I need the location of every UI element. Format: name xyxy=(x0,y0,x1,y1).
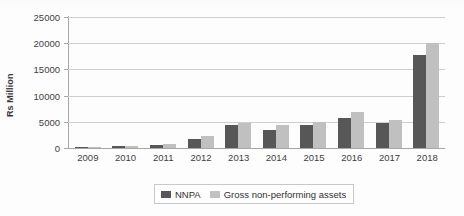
bar-group xyxy=(182,17,220,148)
bar xyxy=(313,122,326,148)
bar-group xyxy=(407,17,445,148)
bar-group xyxy=(370,17,408,148)
bar xyxy=(300,125,313,148)
bar xyxy=(188,139,201,148)
legend-item: NNPA xyxy=(161,189,201,200)
x-axis-tick-label: 2011 xyxy=(144,150,182,166)
bar xyxy=(413,55,426,148)
bar xyxy=(225,125,238,148)
y-axis-tickmark xyxy=(64,69,68,70)
x-axis-tick-label: 2017 xyxy=(371,150,409,166)
x-axis-tick-label: 2013 xyxy=(220,150,258,166)
y-axis-tick-label: 10000 xyxy=(34,90,60,101)
x-axis-tick-label: 2009 xyxy=(69,150,107,166)
bar-group xyxy=(332,17,370,148)
bar-chart: Rs Million 0500010000150002000025000 200… xyxy=(0,0,464,216)
y-axis-tick-label: 25000 xyxy=(34,12,60,23)
bar xyxy=(351,112,364,148)
bar-group xyxy=(257,17,295,148)
x-axis-tick-label: 2018 xyxy=(408,150,446,166)
y-axis-tick-label: 15000 xyxy=(34,64,60,75)
y-axis-tickmark xyxy=(64,96,68,97)
bar xyxy=(163,144,176,148)
plot-area xyxy=(68,17,445,148)
bar-group xyxy=(295,17,333,148)
y-axis-tickmark xyxy=(64,43,68,44)
bar-group xyxy=(107,17,145,148)
bar xyxy=(276,125,289,148)
x-axis-tick-labels: 2009201020112012201320142015201620172018 xyxy=(69,150,446,166)
scan-tint xyxy=(0,0,464,12)
y-axis-tick-labels: 0500010000150002000025000 xyxy=(18,0,64,216)
bar-group xyxy=(69,17,107,148)
legend-label: NNPA xyxy=(175,189,201,200)
legend-item: Gross non-performing assets xyxy=(210,189,347,200)
y-axis-tick-label: 0 xyxy=(55,143,60,154)
bar-group xyxy=(144,17,182,148)
x-axis-tick-label: 2015 xyxy=(295,150,333,166)
legend-label: Gross non-performing assets xyxy=(224,189,347,200)
chart-legend: NNPAGross non-performing assets xyxy=(154,184,354,204)
bar-group xyxy=(219,17,257,148)
bar xyxy=(238,123,251,148)
x-axis-tick-label: 2014 xyxy=(258,150,296,166)
x-axis-tick-label: 2010 xyxy=(107,150,145,166)
x-axis-tick-label: 2012 xyxy=(182,150,220,166)
bar xyxy=(201,136,214,148)
bar xyxy=(75,147,88,148)
x-axis-line xyxy=(68,148,445,149)
bar xyxy=(150,145,163,148)
y-axis-tickmark xyxy=(64,17,68,18)
bar xyxy=(389,120,402,148)
x-axis-tick-label: 2016 xyxy=(333,150,371,166)
y-axis-tickmark xyxy=(64,148,68,149)
bar xyxy=(112,146,125,148)
y-axis-title: Rs Million xyxy=(3,50,17,140)
y-axis-tickmark xyxy=(64,122,68,123)
legend-swatch xyxy=(210,191,220,198)
bar xyxy=(338,118,351,148)
bar xyxy=(263,130,276,148)
bar xyxy=(376,123,389,148)
bar xyxy=(88,147,101,148)
bar xyxy=(426,43,439,148)
legend-swatch xyxy=(161,191,171,198)
y-axis-tick-label: 5000 xyxy=(39,116,60,127)
bar-groups xyxy=(69,17,445,148)
y-axis-tick-label: 20000 xyxy=(34,38,60,49)
bar xyxy=(125,146,138,148)
